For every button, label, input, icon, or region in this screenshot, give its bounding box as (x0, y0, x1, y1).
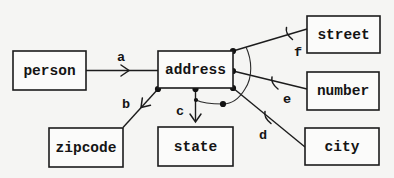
diagram-svg: person address street number city state … (0, 0, 394, 178)
edge-e-line (233, 71, 307, 89)
node-number: number (307, 72, 379, 110)
edge-f-label: f (294, 45, 302, 60)
node-street: street (307, 16, 380, 53)
edge-c-label: c (176, 104, 184, 119)
edge-d-line (233, 88, 305, 147)
node-zipcode-label: zipcode (56, 140, 117, 156)
node-address: address (158, 51, 233, 88)
edge-e-label: e (283, 92, 291, 107)
node-address-label: address (165, 62, 226, 78)
node-street-label: street (317, 27, 369, 43)
diagram-canvas: person address street number city state … (0, 0, 394, 178)
node-state: state (158, 127, 233, 166)
edge-d-label: d (259, 128, 267, 143)
node-number-label: number (317, 83, 369, 99)
edge-a-label: a (117, 50, 125, 65)
arc-dot (220, 101, 226, 107)
edge-b-label: b (122, 97, 130, 112)
node-person: person (13, 51, 86, 90)
arc-end-dot (194, 98, 198, 102)
node-person-label: person (23, 63, 75, 79)
node-city: city (305, 128, 379, 165)
node-state-label: state (174, 139, 218, 155)
node-city-label: city (325, 139, 360, 155)
node-zipcode: zipcode (49, 128, 123, 167)
edge-e-tick-icon (272, 77, 278, 89)
